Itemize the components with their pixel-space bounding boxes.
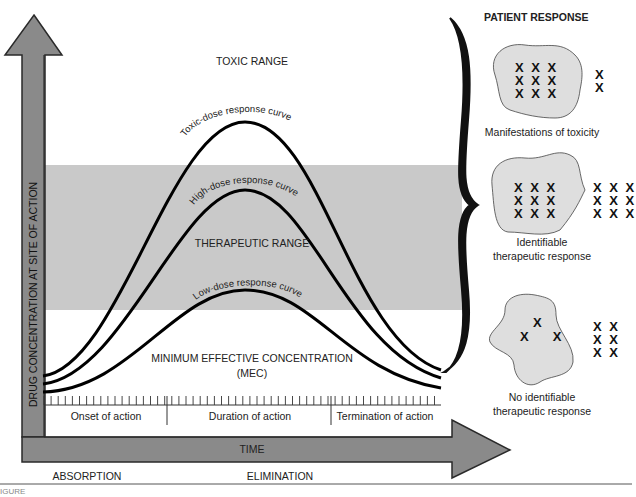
absorption-label: ABSORPTION (53, 470, 122, 482)
no-response-label-line2: therapeutic response (493, 405, 591, 417)
therapeutic-range-label: THERAPEUTIC RANGE (195, 237, 309, 249)
figure-caption-fragment: IGURE (0, 487, 25, 496)
patient-response-title: PATIENT RESPONSE (484, 11, 589, 23)
phase-termination: Termination of action (337, 410, 434, 422)
phase-duration: Duration of action (209, 410, 291, 422)
phase-onset: Onset of action (71, 410, 142, 422)
toxicity-label: Manifestations of toxicity (485, 126, 599, 138)
therapeutic-label-line1: Identifiable (517, 236, 568, 248)
y-axis-label: DRUG CONCENTRATION AT SITE OF ACTION (27, 182, 39, 407)
no-response-label-line1: No identifiable (509, 391, 576, 403)
x-axis-label: TIME (239, 443, 264, 455)
therapeutic-inside-xs: X X X X X X X X X (514, 181, 557, 220)
toxic-curve-label: Toxic-dose response curve (178, 103, 294, 138)
elimination-label: ELIMINATION (247, 470, 313, 482)
mec-label-line2: (MEC) (237, 367, 267, 379)
time-ticks (44, 396, 435, 405)
toxicity-outside-xs: X X (595, 68, 606, 94)
no-response-inside-bottom-xs: X X (520, 330, 562, 343)
therapeutic-outside-xs: X X X X X X X X X (593, 181, 636, 220)
no-response-outside-xs: X X X X X X (593, 320, 620, 359)
toxicity-inside-xs: X X X X X X X X X (515, 61, 558, 100)
mec-label-line1: MINIMUM EFFECTIVE CONCENTRATION (151, 352, 353, 364)
no-response-inside-top-x: X (533, 316, 544, 329)
therapeutic-label-line2: therapeutic response (493, 250, 591, 262)
toxic-range-label: TOXIC RANGE (216, 55, 288, 67)
